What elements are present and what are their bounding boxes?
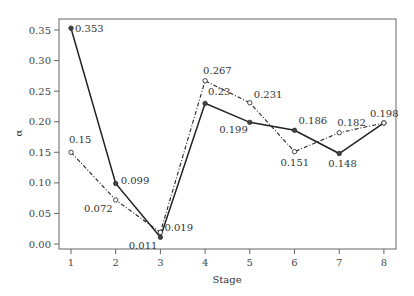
data-label: 0.151 bbox=[281, 157, 310, 168]
y-axis-title: α bbox=[13, 129, 24, 136]
y-tick-label: 0.00 bbox=[29, 239, 51, 250]
x-axis-title: Stage bbox=[212, 274, 241, 285]
data-label: 0.182 bbox=[337, 117, 366, 128]
x-axis: 12345678 bbox=[68, 249, 387, 268]
x-tick-label: 5 bbox=[247, 257, 253, 268]
series-dashdot-marker bbox=[337, 131, 341, 135]
x-tick-label: 8 bbox=[381, 257, 387, 268]
series-dashdot-marker bbox=[158, 230, 162, 234]
y-tick-label: 0.20 bbox=[29, 116, 51, 127]
data-label: 0.353 bbox=[75, 23, 104, 34]
series-solid-marker bbox=[203, 101, 207, 105]
series-dashdot-marker bbox=[382, 121, 386, 125]
data-label: 0.186 bbox=[299, 115, 328, 126]
y-tick-label: 0.15 bbox=[29, 147, 51, 158]
x-tick-label: 3 bbox=[157, 257, 163, 268]
series-solid-marker bbox=[158, 235, 162, 239]
x-tick-label: 2 bbox=[113, 257, 119, 268]
y-tick-label: 0.10 bbox=[29, 177, 51, 188]
x-tick-label: 4 bbox=[202, 257, 208, 268]
data-label: 0.011 bbox=[129, 240, 158, 251]
data-label: 0.15 bbox=[69, 134, 91, 145]
y-axis: 0.000.050.100.150.200.250.300.35 bbox=[29, 25, 59, 250]
data-labels: 0.3530.0990.0110.230.1990.1860.1480.1980… bbox=[69, 23, 399, 251]
data-label: 0.267 bbox=[203, 65, 232, 76]
series-solid-marker bbox=[114, 181, 118, 185]
series-solid-marker bbox=[248, 120, 252, 124]
x-tick-label: 1 bbox=[68, 257, 74, 268]
series-dashdot-marker bbox=[203, 79, 207, 83]
series-solid-marker bbox=[337, 151, 341, 155]
data-label: 0.019 bbox=[164, 222, 193, 233]
series-solid-marker bbox=[69, 26, 73, 30]
x-tick-label: 6 bbox=[291, 257, 297, 268]
y-tick-label: 0.35 bbox=[29, 25, 51, 36]
series-solid-marker bbox=[292, 128, 296, 132]
series-dashdot-marker bbox=[248, 101, 252, 105]
data-label: 0.099 bbox=[121, 175, 150, 186]
data-label: 0.198 bbox=[370, 108, 399, 119]
y-tick-label: 0.25 bbox=[29, 86, 51, 97]
data-label: 0.23 bbox=[208, 86, 230, 97]
data-label: 0.231 bbox=[254, 89, 283, 100]
data-label: 0.199 bbox=[219, 124, 248, 135]
data-label: 0.072 bbox=[84, 203, 113, 214]
data-label: 0.148 bbox=[328, 158, 357, 169]
y-tick-label: 0.30 bbox=[29, 55, 51, 66]
series-dashdot-marker bbox=[114, 198, 118, 202]
y-tick-label: 0.05 bbox=[29, 208, 51, 219]
line-chart: 0.000.050.100.150.200.250.300.35 1234567… bbox=[0, 0, 414, 296]
x-tick-label: 7 bbox=[336, 257, 342, 268]
series-dashdot-marker bbox=[292, 149, 296, 153]
series-dashdot-marker bbox=[69, 150, 73, 154]
